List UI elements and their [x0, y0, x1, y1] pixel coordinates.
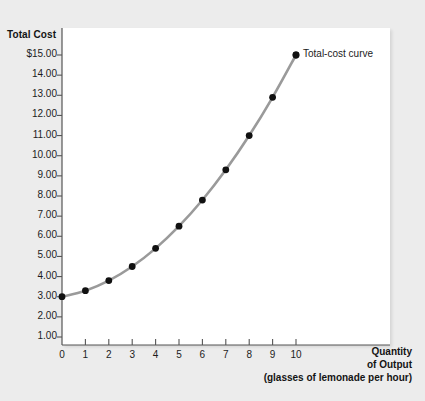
data-point-marker: [246, 132, 253, 139]
data-point-marker: [222, 166, 229, 173]
data-point-marker: [105, 277, 112, 284]
total-cost-curve-label: Total-cost curve: [303, 48, 373, 59]
data-point-marker: [129, 263, 136, 270]
data-point-marker: [82, 287, 89, 294]
data-point-marker: [59, 293, 66, 300]
data-point-marker: [199, 197, 206, 204]
chart-canvas: [0, 0, 425, 401]
x-axis-title-line-1: Quantity: [264, 345, 412, 358]
x-axis-title: Quantity of Output (glasses of lemonade …: [264, 345, 412, 384]
chart-figure: Total Cost $15.0014.0013.0012.0011.0010.…: [0, 0, 425, 401]
total-cost-curve: [62, 55, 296, 297]
data-point-marker: [152, 245, 159, 252]
data-point-markers: [59, 52, 300, 301]
x-axis-title-line-2: of Output: [264, 358, 412, 371]
data-point-marker: [269, 94, 276, 101]
x-axis-title-line-3: (glasses of lemonade per hour): [264, 371, 412, 384]
annotation-marker: [293, 52, 300, 59]
data-point-marker: [176, 223, 183, 230]
